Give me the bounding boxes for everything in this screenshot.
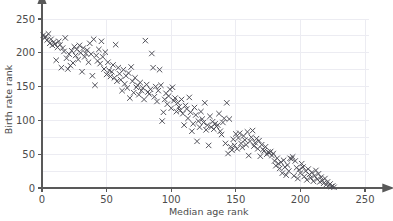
data-point-marker: [86, 60, 91, 65]
x-axis-tick-label: 0: [39, 194, 45, 205]
data-point-marker: [101, 66, 106, 71]
x-axis-arrow: [382, 183, 393, 192]
data-point-marker: [180, 111, 185, 116]
y-axis-tick-label: 200: [16, 47, 35, 58]
data-point-marker: [198, 109, 203, 114]
data-point-marker: [192, 105, 197, 110]
data-point-marker: [188, 110, 193, 115]
data-point-marker: [127, 95, 132, 100]
data-point-marker: [119, 88, 124, 93]
data-point-marker: [193, 112, 198, 117]
data-point-marker: [110, 62, 115, 67]
data-point-marker: [206, 143, 211, 148]
data-point-marker: [96, 47, 101, 52]
data-point-marker: [94, 53, 99, 58]
y-axis-title: Birth rate rank: [3, 64, 14, 134]
data-point-marker: [91, 37, 96, 42]
data-point-marker: [271, 151, 276, 156]
y-axis-arrow: [37, 0, 46, 4]
data-point-marker: [250, 128, 255, 133]
data-point-marker: [223, 141, 228, 146]
data-point-marker: [240, 145, 245, 150]
x-axis-tick-label: 250: [355, 194, 374, 205]
data-point-marker: [113, 42, 118, 47]
data-point-marker: [143, 38, 148, 43]
axis-ticks: [38, 19, 365, 192]
data-point-marker: [224, 100, 229, 105]
data-point-marker: [277, 166, 282, 171]
data-point-marker: [97, 61, 102, 66]
data-point-marker: [99, 39, 104, 44]
data-point-marker: [130, 78, 135, 83]
x-axis-title: Median age rank: [169, 206, 249, 217]
y-axis-tick-label: 100: [16, 115, 35, 126]
data-point-marker: [128, 64, 133, 69]
x-axis-tick-label: 150: [226, 194, 245, 205]
data-point-marker: [202, 100, 207, 105]
data-point-marker: [246, 153, 251, 158]
data-point-marker: [126, 70, 131, 75]
data-point-marker: [285, 162, 290, 167]
data-point-marker: [103, 49, 108, 54]
data-point-marker: [137, 80, 142, 85]
data-point-marker: [189, 129, 194, 134]
data-point-marker: [161, 110, 166, 115]
y-axis-tick-label: 0: [29, 183, 35, 194]
chart-canvas: 050100150200250050100150200250Median age…: [0, 0, 393, 221]
y-axis-tick-label: 50: [22, 149, 35, 160]
data-point-marker: [216, 111, 221, 116]
data-point-marker: [194, 139, 199, 144]
data-point-marker: [187, 95, 192, 100]
scatter-chart: 050100150200250050100150200250Median age…: [0, 0, 393, 221]
x-axis-tick-label: 100: [162, 194, 181, 205]
data-point-marker: [148, 87, 153, 92]
data-point-marker: [302, 174, 307, 179]
data-point-marker: [141, 97, 146, 102]
data-point-marker: [149, 51, 154, 56]
x-axis-tick-label: 200: [291, 194, 310, 205]
data-point-marker: [242, 137, 247, 142]
data-point-marker: [70, 60, 75, 65]
data-point-marker: [132, 75, 137, 80]
data-point-marker: [65, 66, 70, 71]
data-point-marker: [170, 85, 175, 90]
data-point-marker: [181, 122, 186, 127]
data-point-marker: [147, 91, 152, 96]
data-point-marker: [247, 139, 252, 144]
data-point-marker: [234, 146, 239, 151]
data-points: [41, 31, 337, 190]
data-point-marker: [92, 83, 97, 88]
data-point-marker: [152, 94, 157, 99]
data-point-marker: [159, 118, 164, 123]
data-point-marker: [203, 127, 208, 132]
data-point-marker: [295, 176, 300, 181]
data-point-marker: [237, 131, 242, 136]
data-point-marker: [54, 58, 59, 63]
data-point-marker: [166, 93, 171, 98]
data-point-marker: [227, 116, 232, 121]
data-point-marker: [207, 114, 212, 119]
x-axis-tick-label: 50: [100, 194, 113, 205]
data-point-marker: [291, 173, 296, 178]
data-point-marker: [100, 54, 105, 59]
data-point-marker: [90, 73, 95, 78]
data-point-marker: [158, 83, 163, 88]
data-point-marker: [281, 158, 286, 163]
axes: [37, 0, 393, 193]
data-point-marker: [179, 97, 184, 102]
data-point-marker: [131, 90, 136, 95]
y-axis-tick-label: 150: [16, 81, 35, 92]
data-point-marker: [190, 121, 195, 126]
data-point-marker: [245, 129, 250, 134]
y-axis-tick-label: 250: [16, 14, 35, 25]
data-point-marker: [105, 60, 110, 65]
axis-labels: 050100150200250050100150200250Median age…: [3, 14, 375, 217]
data-point-marker: [88, 51, 93, 56]
data-point-marker: [197, 124, 202, 129]
